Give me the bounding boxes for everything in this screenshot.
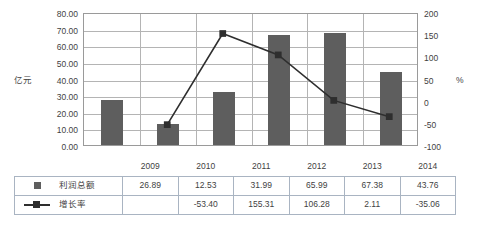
table-cell: 106.28 — [289, 195, 345, 214]
y-tick-label-left: 60.00 — [57, 43, 78, 52]
y-tick-label-right: 0 — [424, 98, 429, 107]
table-cell: 2.11 — [345, 195, 401, 214]
line-series — [84, 14, 417, 145]
y-tick-label-right: -100 — [424, 143, 441, 152]
y-tick-label-left: 10.00 — [57, 126, 78, 135]
table-series-label-cell: 增长率 — [15, 195, 123, 214]
plot-area — [83, 13, 418, 146]
y-tick-label-left: 20.00 — [57, 110, 78, 119]
y-axis-right-title: % — [456, 76, 464, 85]
table-cell: 67.38 — [345, 176, 401, 195]
table-cell: 31.99 — [234, 176, 290, 195]
data-table: 200920102011201220132014利润总额26.8912.5331… — [14, 157, 456, 215]
legend-key — [22, 201, 52, 208]
table-column-header: 2013 — [345, 157, 401, 176]
y-tick-label-right: 200 — [424, 10, 438, 19]
y-axis-left-title: 亿元 — [14, 76, 32, 85]
square-marker-icon — [34, 182, 41, 189]
table-series-label-cell: 利润总额 — [15, 176, 123, 195]
line-marker — [386, 113, 393, 120]
line-marker — [275, 52, 282, 59]
table-column-header: 2009 — [123, 157, 179, 176]
line-marker — [330, 97, 337, 104]
y-tick-label-left: 40.00 — [57, 76, 78, 85]
table-column-header: 2011 — [234, 157, 290, 176]
table-cell — [123, 195, 179, 214]
legend-label: 利润总额 — [59, 181, 95, 190]
line-path — [167, 34, 389, 125]
table-cell: 26.89 — [123, 176, 179, 195]
table-cell: 12.53 — [178, 176, 234, 195]
legend-label: 增长率 — [59, 200, 86, 209]
y-tick-label-left: 80.00 — [57, 10, 78, 19]
table-row: 利润总额26.8912.5331.9965.9967.3843.76 — [15, 176, 456, 195]
y-tick-label-left: 50.00 — [57, 60, 78, 69]
table-cell: 155.31 — [234, 195, 290, 214]
table-header-row: 200920102011201220132014 — [15, 157, 456, 176]
y-tick-label-right: 150 — [424, 32, 438, 41]
y-tick-label-right: 100 — [424, 54, 438, 63]
table-row: 增长率-53.40155.31106.282.11-35.06 — [15, 195, 456, 214]
combo-chart: 0.0010.0020.0030.0040.0050.0060.0070.008… — [0, 0, 481, 225]
table-column-header: 2014 — [400, 157, 456, 176]
line-square-marker-icon — [24, 201, 50, 208]
table-corner-cell — [15, 157, 123, 176]
y-axis-left: 0.0010.0020.0030.0040.0050.0060.0070.008… — [0, 13, 78, 146]
legend-key — [22, 182, 52, 189]
line-marker — [219, 30, 226, 37]
table-column-header: 2012 — [289, 157, 345, 176]
table-cell: -35.06 — [400, 195, 456, 214]
y-tick-label-right: -50 — [424, 121, 436, 130]
table-cell: 43.76 — [400, 176, 456, 195]
y-tick-label-left: 70.00 — [57, 26, 78, 35]
y-tick-label-right: 50 — [424, 76, 433, 85]
table-column-header: 2010 — [178, 157, 234, 176]
y-tick-label-left: 30.00 — [57, 93, 78, 102]
line-marker — [164, 121, 171, 128]
y-tick-label-left: 0.00 — [61, 143, 78, 152]
table-cell: -53.40 — [178, 195, 234, 214]
table-cell: 65.99 — [289, 176, 345, 195]
